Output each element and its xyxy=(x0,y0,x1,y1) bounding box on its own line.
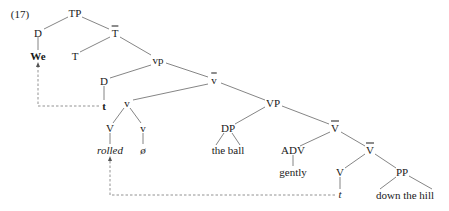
leaf-rolled: rolled xyxy=(97,145,123,156)
node-tp: TP xyxy=(69,8,82,19)
node-little-vp: vp xyxy=(153,55,164,66)
node-pp: PP xyxy=(396,167,408,178)
node-t-bar: T xyxy=(112,28,119,39)
node-v-bar-upper: V xyxy=(331,123,339,134)
node-adv: ADV xyxy=(281,145,305,156)
node-vp: VP xyxy=(266,98,280,109)
node-dp: DP xyxy=(221,123,235,134)
node-v-head: V xyxy=(106,123,114,134)
leaf-trace-t-italic: t xyxy=(338,189,341,200)
node-v-bar-lower: V xyxy=(366,145,374,156)
node-d-trace: D xyxy=(100,76,108,87)
tree-edges xyxy=(0,0,449,211)
node-little-v: v xyxy=(124,98,130,109)
node-d-subject: D xyxy=(34,28,42,39)
node-little-v-head: v xyxy=(140,123,146,134)
leaf-null: ø xyxy=(140,145,146,156)
leaf-we: We xyxy=(30,51,45,62)
node-v-low: V xyxy=(336,167,344,178)
leaf-trace-t-bold: t xyxy=(102,101,106,112)
example-number: (17) xyxy=(11,9,29,20)
leaf-gently: gently xyxy=(279,167,307,178)
leaf-down-the-hill: down the hill xyxy=(376,190,434,201)
node-little-v-bar: v xyxy=(211,75,217,86)
leaf-the-ball: the ball xyxy=(212,145,245,156)
node-t-head: T xyxy=(72,51,79,62)
